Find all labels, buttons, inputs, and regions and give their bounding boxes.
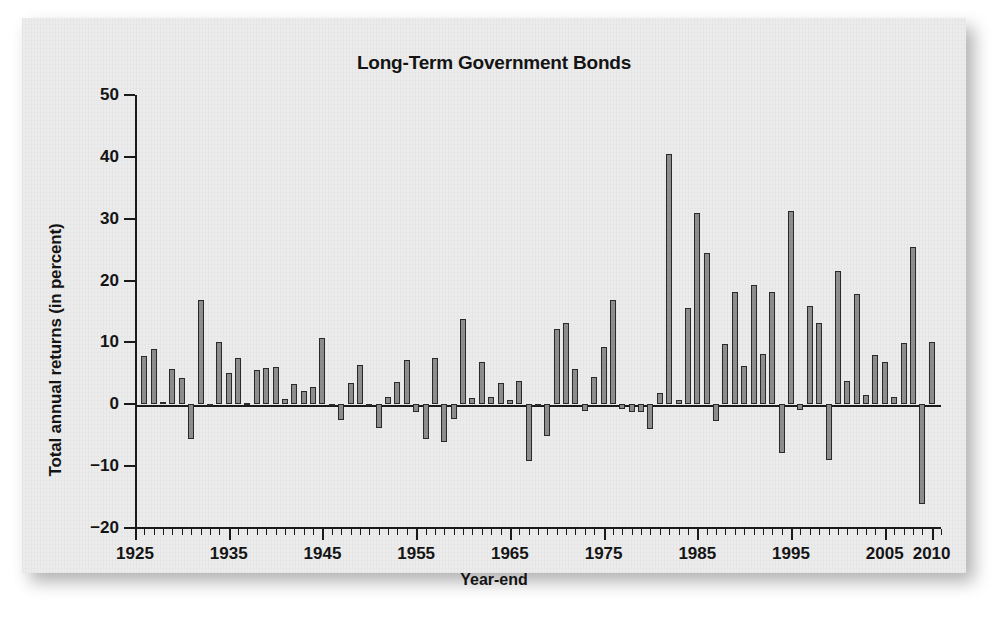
bar [704,253,710,405]
bar [835,271,841,404]
bar [826,404,832,460]
y-tick [124,218,135,220]
bar [207,404,213,406]
x-tick-minor [941,529,942,535]
y-tick [124,94,135,96]
x-tick-minor [219,529,220,535]
x-tick-minor [529,529,530,535]
x-tick-minor [435,529,436,535]
chart-panel: Long-Term Government Bonds Total annual … [22,18,966,573]
x-tick-minor [904,529,905,535]
bar [160,402,166,404]
bar [563,323,569,405]
x-tick-label: 1965 [491,544,529,564]
bar [629,404,635,411]
x-tick-label: 2005 [866,544,904,564]
bar [844,381,850,404]
x-tick-minor [304,529,305,535]
bar [526,404,532,461]
x-tick-minor [866,529,867,535]
x-tick-minor [191,529,192,535]
bar [441,404,447,442]
x-tick-minor [341,529,342,535]
x-tick-minor [351,529,352,535]
x-tick-label: 1995 [772,544,810,564]
bar [544,404,550,436]
bar [779,404,785,452]
x-tick-minor [444,529,445,535]
bar [385,397,391,404]
bar [910,247,916,405]
bar [516,381,522,404]
bar [273,367,279,405]
y-tick-label: 20 [100,271,119,291]
bar [235,358,241,404]
x-tick-major [604,529,606,540]
bar [301,391,307,404]
chart-title: Long-Term Government Bonds [22,52,966,74]
bar [394,382,400,404]
x-tick-major [135,529,137,540]
bar [760,354,766,404]
y-tick [124,527,135,529]
bar [469,398,475,404]
bar [319,338,325,404]
bar [498,383,504,405]
x-tick-minor [491,529,492,535]
x-tick-major [510,529,512,540]
x-tick-minor [800,529,801,535]
bar [169,369,175,404]
plot-area: 50403020100−10−20 1925193519451955196519… [135,95,941,528]
bar [872,355,878,404]
x-tick-minor [838,529,839,535]
bar [919,404,925,504]
x-tick-label: 1945 [304,544,342,564]
x-tick-minor [922,529,923,535]
x-tick-major [416,529,418,540]
x-tick-label: 1925 [116,544,154,564]
x-tick-minor [744,529,745,535]
x-tick-minor [754,529,755,535]
x-tick-minor [360,529,361,535]
bar [413,404,419,412]
x-tick-minor [266,529,267,535]
bar [338,404,344,420]
x-tick-minor [613,529,614,535]
bar [638,404,644,411]
y-tick-label: −20 [90,518,119,538]
bar [741,366,747,404]
bar [685,308,691,404]
y-tick [124,156,135,158]
x-tick-major [229,529,231,540]
bar [610,300,616,404]
x-tick-minor [201,529,202,535]
bar [291,384,297,404]
bar [657,393,663,405]
x-axis-label: Year-end [22,571,966,589]
bar [188,404,194,439]
bar [694,213,700,404]
bar [591,377,597,404]
bar [807,306,813,404]
x-tick-minor [276,529,277,535]
x-tick-minor [294,529,295,535]
bar [507,400,513,404]
x-tick-minor [829,529,830,535]
bar [310,387,316,404]
bar [882,362,888,404]
x-tick-minor [379,529,380,535]
y-axis-line [135,95,137,528]
x-tick-minor [285,529,286,535]
y-tick-label: 40 [100,147,119,167]
bar [619,404,625,408]
x-tick-minor [716,529,717,535]
x-tick-label: 2010 [913,544,951,564]
bar [854,294,860,404]
x-tick-minor [388,529,389,535]
x-tick-minor [725,529,726,535]
bar [535,404,541,406]
x-tick-minor [257,529,258,535]
x-tick-minor [913,529,914,535]
x-tick-minor [688,529,689,535]
x-tick-minor [875,529,876,535]
